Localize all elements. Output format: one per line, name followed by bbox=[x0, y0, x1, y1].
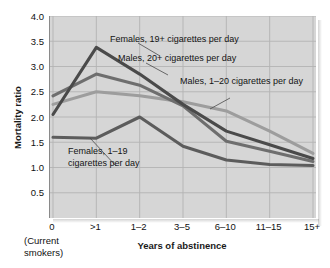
origin-note-line-1: (Current bbox=[24, 235, 63, 247]
anno-males-20plus: Males, 20+ cigarettes per day bbox=[118, 53, 236, 64]
anno-females-1-19-line2: cigarettes per day bbox=[68, 158, 140, 169]
y-tick-0.5: 0.5 bbox=[20, 188, 44, 198]
y-tick-2.5: 2.5 bbox=[20, 87, 44, 97]
x-tick-0: 0 bbox=[49, 221, 54, 232]
y-tick-4.0: 4.0 bbox=[20, 12, 44, 22]
origin-note-line-2: smokers) bbox=[24, 247, 63, 259]
x-tick-2: 1–2 bbox=[131, 221, 147, 232]
anno-males-1-20: Males, 1–20 cigarettes per day bbox=[180, 76, 303, 87]
x-tick-1: >1 bbox=[90, 221, 101, 232]
x-tick-6: 15+ bbox=[304, 221, 320, 232]
y-tick-1.0: 1.0 bbox=[20, 163, 44, 173]
x-tick-4: 6–10 bbox=[215, 221, 236, 232]
y-tick-1.5: 1.5 bbox=[20, 138, 44, 148]
anno-females-19plus: Females, 19+ cigarettes per day bbox=[110, 34, 239, 45]
x-axis-ticks: 0>11–23–56–1011–1515+ bbox=[49, 221, 315, 235]
y-axis-ticks: 4.0 3.5 3.0 2.5 2.0 1.5 1.0 0.5 bbox=[18, 0, 44, 268]
x-axis-title: Years of abstinence bbox=[49, 240, 315, 251]
x-tick-5: 11–15 bbox=[256, 221, 282, 232]
series-canvas bbox=[50, 16, 316, 218]
y-tick-3.5: 3.5 bbox=[20, 37, 44, 47]
x-axis-origin-note: (Current smokers) bbox=[24, 235, 63, 258]
x-tick-3: 3–5 bbox=[174, 221, 190, 232]
figure-shadow-right bbox=[318, 20, 322, 226]
y-tick-2.0: 2.0 bbox=[20, 113, 44, 123]
y-tick-3.0: 3.0 bbox=[20, 62, 44, 72]
chart-figure: Mortality ratio 4.0 3.5 3.0 2.5 2.0 1.5 … bbox=[0, 0, 330, 268]
annotation-leader-2 bbox=[210, 98, 230, 109]
plot-area bbox=[49, 16, 316, 218]
anno-females-1-19-line1: Females, 1–19 bbox=[68, 146, 128, 157]
annotation-leader-1 bbox=[146, 63, 168, 75]
